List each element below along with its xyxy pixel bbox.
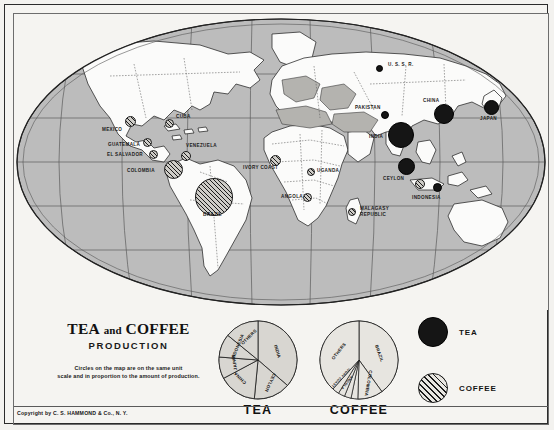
footer-divider bbox=[14, 406, 548, 407]
marker-ceylon bbox=[398, 158, 415, 175]
copyright-notice: Copyright by C. S. HAMMOND & Co., N. Y. bbox=[17, 410, 128, 416]
marker-pakistan bbox=[381, 111, 389, 119]
marker-el-salvador bbox=[149, 150, 158, 159]
map-svg bbox=[14, 14, 548, 310]
marker-mexico bbox=[125, 116, 136, 127]
tea-swatch-icon bbox=[418, 317, 448, 347]
marker-indonesia-coffee bbox=[415, 179, 425, 189]
map-label-el-salvador: EL SALVADOR bbox=[107, 153, 143, 158]
map-label-india: INDIA bbox=[369, 135, 383, 140]
legend-row-coffee: COFFEE bbox=[418, 373, 548, 415]
marker-cuba bbox=[165, 119, 174, 128]
map-label-guatemala: GUATEMALA bbox=[108, 143, 140, 148]
marker-china bbox=[434, 104, 454, 124]
map-label-cuba: CUBA bbox=[176, 115, 191, 120]
map-label-venezuela: VENEZUELA bbox=[186, 144, 217, 149]
marker-angola bbox=[303, 193, 312, 202]
marker-ussr bbox=[376, 65, 383, 72]
scale-note: Circles on the map are on the same unit … bbox=[36, 364, 221, 381]
map-label-colombia: COLOMBIA bbox=[127, 169, 155, 174]
marker-india bbox=[388, 122, 414, 148]
marker-uganda bbox=[307, 168, 315, 176]
legend-label-coffee: COFFEE bbox=[459, 384, 497, 393]
legend-row-tea: TEA bbox=[418, 317, 548, 359]
map-label-malagasy: MALAGASY REPUBLIC bbox=[360, 206, 390, 217]
commodity-legend: TEA COFFEE bbox=[418, 317, 548, 415]
scale-note-line2: scale and in proportion to the amount of… bbox=[36, 372, 221, 380]
marker-venezuela bbox=[181, 151, 191, 161]
poster-frame: U. S. S. R. PAKISTAN CHINA JAPAN INDIA C… bbox=[4, 4, 548, 424]
coffee-swatch-icon bbox=[418, 373, 448, 403]
map-label-angola: ANGOLA bbox=[281, 195, 303, 200]
map-label-ussr: U. S. S. R. bbox=[388, 63, 414, 68]
map-label-pakistan: PAKISTAN bbox=[355, 106, 381, 111]
map-label-uganda: UGANDA bbox=[317, 169, 339, 174]
map-label-japan: JAPAN bbox=[480, 117, 497, 122]
scale-note-line1: Circles on the map are on the same unit bbox=[36, 364, 221, 372]
map-label-china: CHINA bbox=[423, 99, 439, 104]
marker-colombia bbox=[164, 160, 183, 179]
map-label-brazil: BRAZIL bbox=[203, 213, 222, 218]
marker-indonesia-tea bbox=[433, 183, 442, 192]
legend-label-tea: TEA bbox=[459, 328, 478, 337]
legend-panel: TEAandCOFFEE PRODUCTION Circles on the m… bbox=[14, 311, 548, 425]
page-subtitle: PRODUCTION bbox=[36, 340, 221, 351]
infographic-page: U. S. S. R. PAKISTAN CHINA JAPAN INDIA C… bbox=[0, 0, 554, 430]
title-and: and bbox=[104, 324, 122, 336]
title-tea: TEA bbox=[67, 320, 99, 337]
marker-guatemala bbox=[143, 138, 152, 147]
marker-ivory-coast bbox=[270, 155, 281, 166]
marker-japan bbox=[484, 100, 499, 115]
title-block: TEAandCOFFEE PRODUCTION Circles on the m… bbox=[36, 320, 221, 381]
world-map: U. S. S. R. PAKISTAN CHINA JAPAN INDIA C… bbox=[14, 14, 548, 310]
map-label-ivory-coast: IVORY COAST bbox=[243, 166, 278, 171]
map-label-ceylon: CEYLON bbox=[383, 177, 404, 182]
marker-malagasy bbox=[348, 208, 356, 216]
map-label-indonesia: INDONESIA bbox=[412, 196, 441, 201]
map-label-mexico: MEXICO bbox=[102, 128, 122, 133]
marker-brazil bbox=[195, 178, 233, 216]
page-title: TEAandCOFFEE bbox=[36, 320, 221, 338]
title-coffee: COFFEE bbox=[126, 320, 190, 337]
